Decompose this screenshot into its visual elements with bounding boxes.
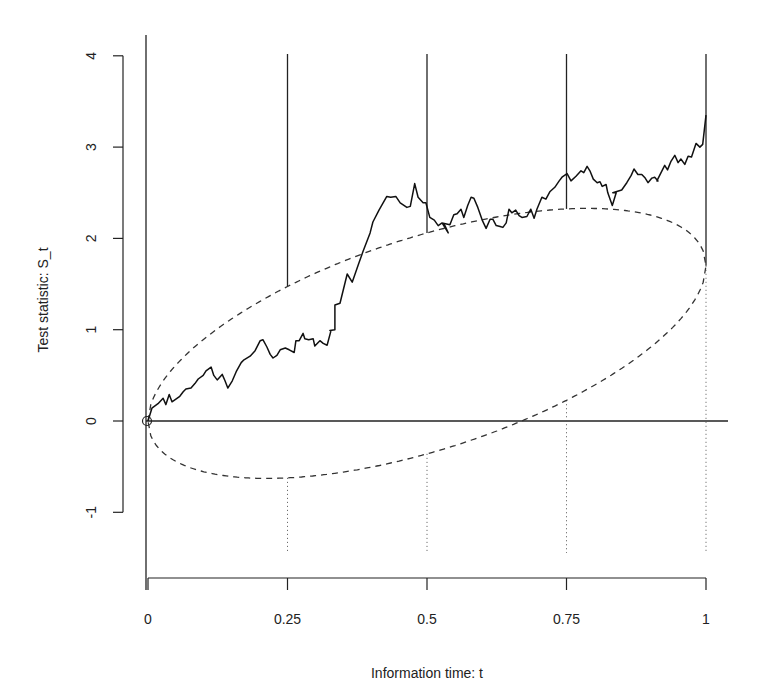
chart-canvas: -10123400.250.50.751 Information time: t… [0,0,760,691]
ellipse-boundary-path [148,208,706,478]
x-tick-label: 1 [702,611,710,627]
y-tick-label: 1 [83,326,99,334]
y-tick-label: 0 [83,417,99,425]
x-tick-label: 0.5 [417,611,437,627]
boundary-ellipse [148,208,706,478]
x-axis-title: Information time: t [371,665,483,681]
y-tick-label: -1 [83,506,99,519]
x-tick-label: 0 [144,611,152,627]
x-tick-label: 0.75 [553,611,580,627]
y-axis-title: Test statistic: S_t [35,247,51,352]
x-tick-label: 0.25 [274,611,301,627]
y-tick-label: 3 [83,143,99,151]
y-tick-label: 2 [83,234,99,242]
axes: -10123400.250.50.751 [83,35,728,627]
interim-look-lines [288,54,707,553]
y-tick-label: 4 [83,52,99,60]
